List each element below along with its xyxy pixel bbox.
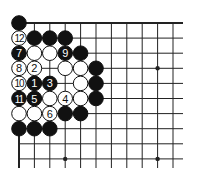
black-stone bbox=[43, 31, 58, 46]
black-stone: 11 bbox=[12, 91, 27, 106]
white-stone: 10 bbox=[12, 76, 27, 91]
black-stone bbox=[89, 91, 104, 106]
star-point bbox=[155, 66, 159, 70]
white-stone bbox=[43, 91, 58, 106]
black-stone bbox=[73, 46, 88, 61]
white-stone bbox=[58, 61, 73, 76]
white-stone: 6 bbox=[43, 106, 58, 121]
move-number: 4 bbox=[62, 93, 68, 105]
white-stone: 8 bbox=[12, 61, 27, 76]
black-stone bbox=[12, 16, 27, 31]
white-stone: 4 bbox=[58, 91, 73, 106]
white-stone bbox=[73, 91, 88, 106]
star-point bbox=[63, 157, 67, 161]
black-stone bbox=[73, 106, 88, 121]
white-stone bbox=[27, 46, 42, 61]
stones-layer: 127982101311546 bbox=[12, 16, 104, 136]
move-number: 8 bbox=[16, 62, 22, 74]
black-stone bbox=[43, 121, 58, 136]
white-stone bbox=[27, 106, 42, 121]
move-number: 10 bbox=[14, 78, 25, 89]
black-stone: 7 bbox=[12, 46, 27, 61]
black-stone bbox=[27, 121, 42, 136]
black-stone: 5 bbox=[27, 91, 42, 106]
move-number: 9 bbox=[62, 47, 68, 59]
star-point bbox=[155, 157, 159, 161]
white-stone: 12 bbox=[12, 31, 27, 46]
black-stone: 3 bbox=[43, 76, 58, 91]
black-stone bbox=[27, 31, 42, 46]
black-stone bbox=[12, 121, 27, 136]
black-stone bbox=[58, 31, 73, 46]
black-stone bbox=[58, 106, 73, 121]
black-stone bbox=[89, 61, 104, 76]
white-stone bbox=[73, 76, 88, 91]
black-stone bbox=[89, 76, 104, 91]
move-number: 12 bbox=[14, 33, 25, 44]
go-board: 127982101311546 bbox=[0, 0, 198, 175]
move-number: 11 bbox=[15, 94, 25, 105]
move-number: 5 bbox=[31, 93, 37, 105]
white-stone: 2 bbox=[27, 61, 42, 76]
move-number: 3 bbox=[47, 77, 53, 89]
move-number: 6 bbox=[47, 108, 53, 120]
white-stone bbox=[12, 106, 27, 121]
black-stone: 9 bbox=[58, 46, 73, 61]
move-number: 2 bbox=[31, 62, 37, 74]
white-stone bbox=[73, 61, 88, 76]
white-stone bbox=[43, 46, 58, 61]
black-stone: 1 bbox=[27, 76, 42, 91]
move-number: 7 bbox=[16, 47, 22, 59]
move-number: 1 bbox=[31, 77, 37, 89]
